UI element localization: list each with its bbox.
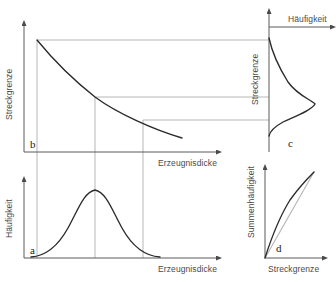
- panel-d-group: Summenhäufigkeit Streckgrenze d: [246, 165, 322, 274]
- panel-b-group: Streckgrenze Erzeugnisdicke b: [4, 26, 269, 258]
- panel-d-letter: d: [276, 242, 282, 254]
- panel-a-group: Häufigkeit Erzeugnisdicke a: [4, 182, 217, 274]
- four-panel-diagram: Streckgrenze Erzeugnisdicke b Häufigkeit…: [0, 0, 336, 284]
- panel-d-reference-line: [265, 172, 314, 258]
- panel-a-x-axis-label: Erzeugnisdicke: [158, 264, 217, 274]
- panel-c-letter: c: [288, 137, 293, 149]
- panel-b-curve: [37, 40, 182, 138]
- panel-c-curve: [269, 38, 315, 136]
- panel-a-y-axis-label: Häufigkeit: [4, 199, 14, 238]
- panel-b-x-axis-label: Erzeugnisdicke: [158, 158, 217, 168]
- diagram-canvas: Streckgrenze Erzeugnisdicke b Häufigkeit…: [0, 0, 336, 284]
- panel-c-group: Streckgrenze Häufigkeit c: [250, 14, 330, 152]
- panel-c-y-axis-label: Streckgrenze: [250, 54, 260, 105]
- panel-b-y-axis-label: Streckgrenze: [4, 69, 14, 120]
- panel-a-curve: [31, 190, 160, 257]
- panel-c-x-axis-label: Häufigkeit: [288, 14, 327, 24]
- panel-b-letter: b: [30, 138, 36, 150]
- panel-a-letter: a: [30, 244, 35, 256]
- panel-d-x-axis-label: Streckgrenze: [268, 264, 319, 274]
- panel-d-y-axis-label: Summenhäufigkeit: [246, 165, 256, 238]
